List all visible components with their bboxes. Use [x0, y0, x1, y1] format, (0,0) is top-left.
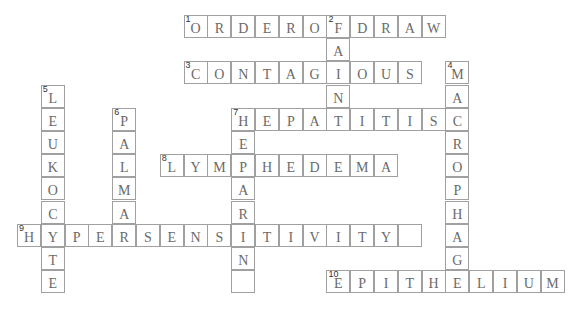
crossword-cell[interactable]: E: [255, 108, 279, 131]
crossword-cell[interactable]: E: [231, 131, 255, 154]
crossword-cell[interactable]: D: [231, 15, 255, 38]
crossword-cell[interactable]: T: [255, 224, 279, 247]
crossword-cell[interactable]: Y: [184, 154, 208, 177]
crossword-cell[interactable]: O: [41, 177, 65, 200]
crossword-cell[interactable]: P: [65, 224, 89, 247]
crossword-cell[interactable]: N: [231, 61, 255, 84]
crossword-cell[interactable]: 1O: [184, 15, 208, 38]
crossword-cell[interactable]: O: [445, 154, 469, 177]
crossword-cell[interactable]: 2F: [326, 15, 350, 38]
crossword-cell[interactable]: G: [303, 61, 327, 84]
crossword-cell[interactable]: I: [398, 108, 422, 131]
crossword-cell[interactable]: E: [88, 224, 112, 247]
crossword-cell[interactable]: A: [326, 38, 350, 61]
crossword-cell[interactable]: 3C: [184, 61, 208, 84]
crossword-cell[interactable]: K: [41, 154, 65, 177]
crossword-cell[interactable]: 7H: [231, 108, 255, 131]
crossword-cell[interactable]: I: [231, 224, 255, 247]
crossword-cell[interactable]: S: [398, 61, 422, 84]
crossword-cell[interactable]: A: [374, 154, 398, 177]
crossword-cell[interactable]: T: [255, 61, 279, 84]
crossword-cell[interactable]: T: [398, 270, 422, 293]
crossword-cell[interactable]: A: [112, 201, 136, 224]
crossword-cell[interactable]: S: [207, 224, 231, 247]
crossword-cell[interactable]: P: [279, 108, 303, 131]
crossword-cell[interactable]: E: [255, 15, 279, 38]
crossword-cell[interactable]: E: [279, 154, 303, 177]
crossword-cell[interactable]: E: [41, 270, 65, 293]
crossword-cell[interactable]: E: [160, 224, 184, 247]
crossword-cell[interactable]: A: [112, 131, 136, 154]
cell-letter: S: [208, 225, 230, 250]
crossword-cell[interactable]: 9H: [17, 224, 41, 247]
crossword-cell[interactable]: T: [326, 108, 350, 131]
crossword-cell[interactable]: 8L: [160, 154, 184, 177]
crossword-cell[interactable]: U: [374, 61, 398, 84]
crossword-cell[interactable]: D: [303, 154, 327, 177]
crossword-cell[interactable]: A: [445, 85, 469, 108]
cell-letter: O: [304, 16, 326, 41]
crossword-cell[interactable]: A: [303, 108, 327, 131]
crossword-cell[interactable]: I: [493, 270, 517, 293]
crossword-cell[interactable]: W: [422, 15, 446, 38]
crossword-cell[interactable]: R: [112, 224, 136, 247]
crossword-cell[interactable]: S: [136, 224, 160, 247]
crossword-cell[interactable]: H: [255, 154, 279, 177]
crossword-cell[interactable]: A: [445, 224, 469, 247]
crossword-cell[interactable]: I: [374, 270, 398, 293]
crossword-cell[interactable]: M: [350, 154, 374, 177]
crossword-cell[interactable]: 5L: [41, 85, 65, 108]
crossword-cell[interactable]: P: [350, 270, 374, 293]
crossword-cell[interactable]: R: [374, 15, 398, 38]
crossword-cell[interactable]: P: [445, 177, 469, 200]
crossword-cell[interactable]: N: [326, 85, 350, 108]
crossword-cell[interactable]: M: [207, 154, 231, 177]
crossword-cell[interactable]: G: [445, 247, 469, 270]
crossword-cell[interactable]: P: [231, 154, 255, 177]
crossword-cell[interactable]: Y: [374, 224, 398, 247]
crossword-cell[interactable]: I: [350, 108, 374, 131]
crossword-cell[interactable]: U: [517, 270, 541, 293]
crossword-cell[interactable]: T: [350, 224, 374, 247]
crossword-cell[interactable]: E: [445, 270, 469, 293]
crossword-cell[interactable]: C: [41, 201, 65, 224]
crossword-cell[interactable]: R: [207, 15, 231, 38]
crossword-cell[interactable]: H: [445, 201, 469, 224]
crossword-cell[interactable]: N: [231, 247, 255, 270]
crossword-cell[interactable]: 4M: [445, 61, 469, 84]
cell-letter: E: [161, 225, 183, 250]
crossword-cell[interactable]: O: [303, 15, 327, 38]
crossword-cell[interactable]: C: [445, 108, 469, 131]
cell-letter: W: [423, 16, 445, 41]
crossword-cell[interactable]: S: [422, 108, 446, 131]
crossword-cell[interactable]: R: [445, 131, 469, 154]
crossword-cell[interactable]: 10E: [326, 270, 350, 293]
crossword-cell[interactable]: T: [374, 108, 398, 131]
crossword-cell[interactable]: E: [326, 154, 350, 177]
crossword-cell[interactable]: L: [469, 270, 493, 293]
crossword-cell[interactable]: I: [326, 61, 350, 84]
crossword-cell[interactable]: O: [350, 61, 374, 84]
crossword-cell[interactable]: E: [41, 108, 65, 131]
crossword-cell[interactable]: L: [112, 154, 136, 177]
crossword-cell[interactable]: [398, 224, 422, 247]
crossword-cell[interactable]: T: [41, 247, 65, 270]
crossword-cell[interactable]: A: [231, 177, 255, 200]
crossword-cell[interactable]: [231, 270, 255, 293]
crossword-cell[interactable]: V: [303, 224, 327, 247]
crossword-cell[interactable]: 6P: [112, 108, 136, 131]
crossword-cell[interactable]: U: [41, 131, 65, 154]
crossword-cell[interactable]: A: [279, 61, 303, 84]
crossword-cell[interactable]: M: [541, 270, 565, 293]
crossword-cell[interactable]: H: [422, 270, 446, 293]
crossword-cell[interactable]: I: [279, 224, 303, 247]
crossword-cell[interactable]: A: [398, 15, 422, 38]
crossword-cell[interactable]: Y: [41, 224, 65, 247]
crossword-cell[interactable]: D: [350, 15, 374, 38]
crossword-cell[interactable]: I: [326, 224, 350, 247]
crossword-cell[interactable]: O: [207, 61, 231, 84]
crossword-cell[interactable]: M: [112, 177, 136, 200]
crossword-cell[interactable]: R: [279, 15, 303, 38]
crossword-cell[interactable]: R: [231, 201, 255, 224]
crossword-cell[interactable]: N: [184, 224, 208, 247]
